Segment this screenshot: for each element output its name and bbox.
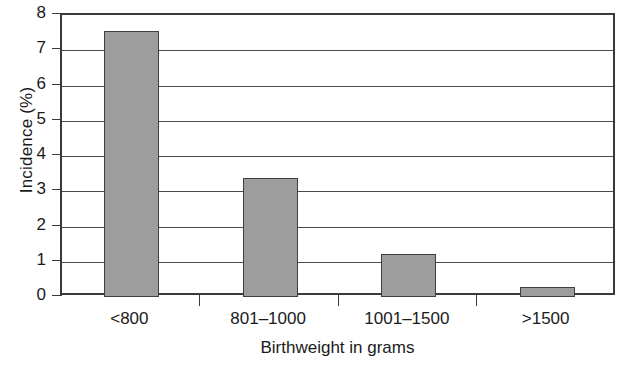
bar-chart-figure: Incidence (%) 012345678 <800801–10001001… bbox=[0, 0, 623, 368]
x-axis-category-label: 801–1000 bbox=[199, 309, 338, 329]
y-axis-tick-label: 7 bbox=[8, 39, 46, 56]
x-axis-category-label: >1500 bbox=[476, 309, 615, 329]
x-axis-category-label: <800 bbox=[60, 309, 199, 329]
y-axis-tick-label: 0 bbox=[8, 286, 46, 303]
y-axis-tick bbox=[52, 295, 62, 296]
y-axis-tick-label: 3 bbox=[8, 180, 46, 197]
x-axis-category-label: 1001–1500 bbox=[338, 309, 477, 329]
y-axis-tick-label: 6 bbox=[8, 75, 46, 92]
bar bbox=[104, 31, 159, 297]
bar bbox=[243, 178, 298, 297]
y-axis-tick-label: 4 bbox=[8, 145, 46, 162]
y-axis-tick-label: 2 bbox=[8, 216, 46, 233]
y-axis-tick-label: 5 bbox=[8, 110, 46, 127]
x-axis-tick bbox=[476, 295, 477, 306]
x-axis-title: Birthweight in grams bbox=[60, 338, 615, 358]
y-axis-tick-label: 8 bbox=[8, 4, 46, 21]
bar bbox=[520, 287, 575, 297]
bar bbox=[381, 254, 436, 297]
x-axis-tick bbox=[338, 295, 339, 306]
x-axis-tick bbox=[199, 295, 200, 306]
plot-area bbox=[60, 13, 615, 295]
y-axis-title: Incidence (%) bbox=[17, 40, 37, 240]
y-axis-tick-label: 1 bbox=[8, 251, 46, 268]
